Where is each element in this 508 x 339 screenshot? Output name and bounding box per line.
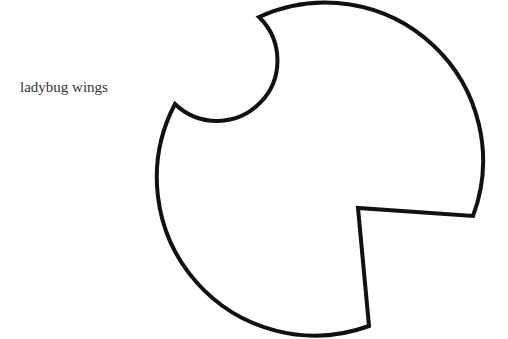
ladybug-wing-shape [0, 0, 508, 339]
wing-outline [157, 3, 483, 336]
